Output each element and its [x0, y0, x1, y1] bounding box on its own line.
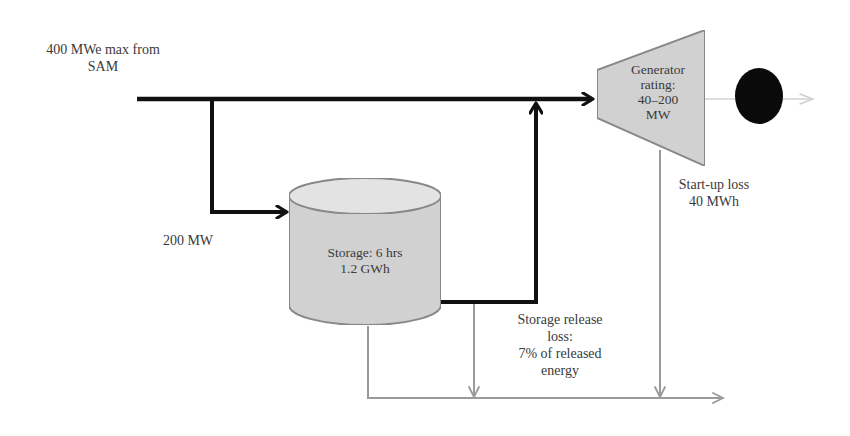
source-to-storage-arrow [212, 99, 286, 212]
startup-loss-label: Start-up loss 40 MWh [662, 176, 766, 210]
storage-label: Storage: 6 hrs 1.2 GWh [289, 245, 441, 277]
generator-label: Generator rating: 40–200 MW [614, 62, 702, 122]
charge-rate-label: 200 MW [148, 232, 228, 249]
grid-node [735, 68, 783, 124]
storage-to-generator-arrow [441, 104, 536, 302]
output-flow [705, 68, 812, 124]
storage-release-loss-label: Storage release loss: 7% of released ene… [490, 311, 630, 379]
source-label: 400 MWe max from SAM [28, 41, 178, 75]
